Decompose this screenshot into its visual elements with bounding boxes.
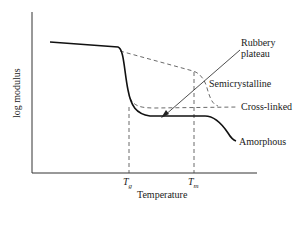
semicrystalline-curve: [120, 51, 218, 106]
semicrystalline-label: Semicrystalline: [209, 78, 271, 89]
rubbery-label-line1: Rubbery: [241, 37, 275, 48]
tm-tick-label: Tm: [188, 176, 199, 190]
y-axis-label: log modulus: [11, 68, 22, 118]
crosslinked-curve: [130, 98, 238, 108]
crosslinked-label: Cross-linked: [241, 101, 292, 112]
rubbery-label-line2: plateau: [241, 48, 270, 59]
x-axis-label: Temperature: [137, 189, 187, 200]
tg-tick-label: Tg: [123, 176, 132, 190]
amorphous-curve: [50, 42, 236, 141]
amorphous-label: Amorphous: [239, 136, 286, 147]
